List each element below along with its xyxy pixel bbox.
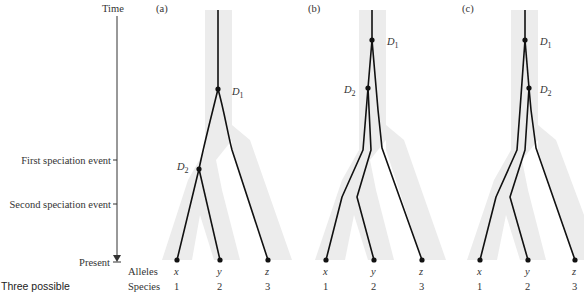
coalescence-node-d2 [196, 166, 201, 171]
figure-caption: Three possible [1, 280, 70, 292]
allele-z: z [418, 266, 423, 277]
coalescence-node-d1 [522, 37, 527, 42]
species-3: 3 [265, 281, 270, 292]
coalescence-node-d1 [215, 86, 220, 91]
gene-tree-diagram: Time First speciation event Second speci… [0, 0, 584, 292]
second-speciation-label: Second speciation event [10, 199, 112, 210]
allele-y: y [524, 266, 530, 277]
d1-label: D1 [539, 36, 552, 50]
allele-x: x [322, 266, 328, 277]
time-arrow-icon [113, 255, 121, 262]
allele-tip-x [477, 257, 482, 262]
panel-c-label: (c) [462, 3, 474, 15]
allele-x: x [476, 266, 482, 277]
species-row-label: Species [128, 281, 160, 292]
d1-label: D1 [386, 36, 399, 50]
species-2: 2 [217, 281, 222, 292]
coalescence-node-d2 [526, 85, 531, 90]
species-1: 1 [174, 281, 179, 292]
allele-y: y [370, 266, 376, 277]
panel-b: (b) D1 D2 x y z 1 2 3 [308, 3, 446, 292]
species-2: 2 [525, 281, 530, 292]
panel-b-label: (b) [308, 3, 321, 15]
coalescence-node-d1 [369, 37, 374, 42]
coalescence-node-d2 [365, 85, 370, 90]
first-speciation-label: First speciation event [21, 155, 111, 166]
d1-label: D1 [231, 86, 244, 100]
species-1: 1 [323, 281, 328, 292]
allele-z: z [571, 266, 576, 277]
allele-tip-y [217, 257, 222, 262]
allele-tip-x [323, 257, 328, 262]
species-1: 1 [477, 281, 482, 292]
species-tree-band [315, 10, 394, 260]
species-3: 3 [572, 281, 577, 292]
allele-z: z [264, 266, 269, 277]
allele-tip-y [371, 257, 376, 262]
d2-label: D2 [343, 84, 356, 98]
allele-tip-z [265, 257, 270, 262]
species-2: 2 [371, 281, 376, 292]
alleles-row-label: Alleles [128, 266, 158, 277]
time-axis-title: Time [102, 3, 124, 14]
species-3: 3 [419, 281, 424, 292]
panel-a-label: (a) [156, 3, 168, 15]
d2-label: D2 [539, 84, 552, 98]
allele-tip-z [419, 257, 424, 262]
allele-tip-x [174, 257, 179, 262]
panel-a: (a) D1 D2 x y z 1 2 3 [156, 3, 292, 292]
allele-y: y [216, 266, 222, 277]
d2-label: D2 [176, 161, 189, 175]
panel-c: (c) D1 D2 x y z 1 2 3 [462, 3, 584, 292]
allele-x: x [173, 266, 179, 277]
allele-tip-z [572, 257, 577, 262]
allele-tip-y [525, 257, 530, 262]
present-label: Present [79, 257, 110, 268]
